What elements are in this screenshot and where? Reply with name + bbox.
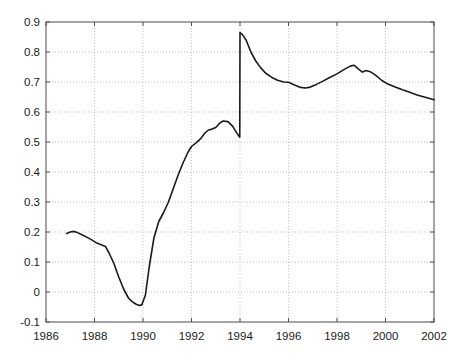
ytick-label: 0.7 bbox=[24, 76, 40, 88]
ytick-label: 0.9 bbox=[24, 16, 40, 28]
ytick-label: 0 bbox=[34, 286, 40, 298]
xtick-label: 1990 bbox=[130, 330, 156, 342]
ytick-label: 0.1 bbox=[24, 256, 40, 268]
ytick-label: 0.6 bbox=[24, 106, 40, 118]
xtick-label: 2002 bbox=[421, 330, 447, 342]
xtick-label: 1998 bbox=[324, 330, 350, 342]
ytick-label: -0.1 bbox=[20, 316, 40, 328]
ytick-label: 0.3 bbox=[24, 196, 40, 208]
line-chart: -0.100.10.20.30.40.50.60.70.80.919861988… bbox=[0, 0, 459, 363]
chart-background bbox=[0, 0, 459, 363]
chart-figure: -0.100.10.20.30.40.50.60.70.80.919861988… bbox=[0, 0, 459, 363]
ytick-label: 0.5 bbox=[24, 136, 40, 148]
xtick-label: 1992 bbox=[179, 330, 205, 342]
xtick-label: 1988 bbox=[82, 330, 108, 342]
xtick-label: 2000 bbox=[373, 330, 399, 342]
ytick-label: 0.4 bbox=[24, 166, 41, 178]
ytick-label: 0.8 bbox=[24, 46, 40, 58]
xtick-label: 1986 bbox=[33, 330, 59, 342]
ytick-label: 0.2 bbox=[24, 226, 40, 238]
xtick-label: 1994 bbox=[227, 330, 253, 342]
xtick-label: 1996 bbox=[276, 330, 302, 342]
